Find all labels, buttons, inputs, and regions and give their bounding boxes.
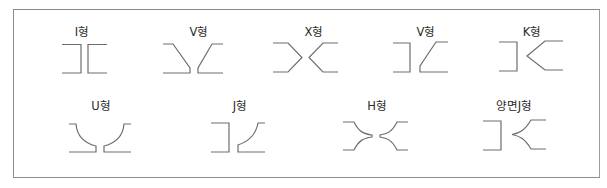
- h-groove-shape: [343, 122, 408, 150]
- i-groove-shape: [62, 45, 107, 74]
- groove-shapes: [0, 0, 607, 188]
- u-groove-shape: [69, 124, 131, 152]
- v-groove-shape: [163, 44, 223, 73]
- k-groove-shape: [499, 41, 563, 71]
- single-bevel-groove-shape: [393, 42, 448, 72]
- x-groove-shape: [273, 43, 338, 72]
- j-groove-shape: [211, 123, 265, 152]
- double-j-groove-shape: [483, 120, 546, 150]
